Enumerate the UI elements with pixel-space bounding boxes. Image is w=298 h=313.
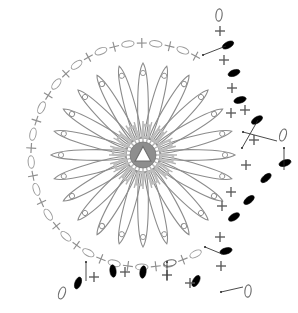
leader-line-6-dot [85,261,87,263]
chain-stitch-border-16 [28,156,35,169]
center-ring-layer [109,121,177,189]
leader-line-7-dot [166,261,168,263]
petal-eye-6 [222,152,227,157]
leader-line-3-dot [283,147,285,149]
petal-eye-18 [58,152,63,157]
cross-bar-v [26,148,36,149]
petal-eye-0 [140,70,145,75]
leader-line-0-dot [202,54,204,56]
crochet-chart-canvas [0,0,298,313]
petal-eye-12 [140,234,145,239]
leader-line-2-dot [241,147,243,149]
leader-line-1-dot [242,131,244,133]
leader-line-4-dot [204,246,206,248]
leader-line-5-dot [220,291,222,293]
crochet-pattern-diagram [0,0,298,313]
